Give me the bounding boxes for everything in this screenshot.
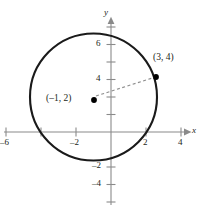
circle-point-label: (3, 4) (153, 53, 174, 63)
x-tick-label--2: –2 (70, 138, 79, 147)
coordinate-plane (0, 0, 207, 216)
circle-point-dot (153, 74, 159, 80)
x-tick-label-2: 2 (143, 138, 148, 147)
x-axis-label: x (192, 126, 196, 135)
y-tick-label--2: –2 (92, 161, 101, 170)
center-point-label: (–1, 2) (46, 94, 71, 104)
radius-dashed-line (96, 77, 156, 96)
x-axis-arrowhead (184, 129, 192, 136)
y-tick-label-6: 6 (96, 39, 101, 48)
y-axis-arrowhead (108, 17, 115, 24)
x-tick-label--6: –6 (0, 138, 9, 147)
y-axis-label: y (104, 8, 108, 17)
x-tick-label-4: 4 (178, 138, 183, 147)
center-point-dot (91, 97, 97, 103)
circle-graph-figure: x y –6 –2 2 4 6 4 –2 –4 (–1, 2) (3, 4) (0, 0, 207, 216)
y-tick-label--4: –4 (92, 179, 101, 188)
y-tick-label-4: 4 (96, 74, 101, 83)
